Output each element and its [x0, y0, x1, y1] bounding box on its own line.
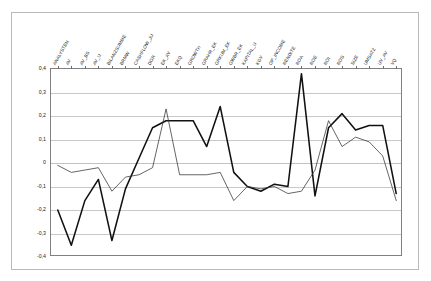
x-axis-tick-label-roi: ROI: [322, 56, 331, 66]
x-axis-tick-mark: [342, 66, 343, 69]
x-axis-tick-label-vq: VQ: [390, 58, 398, 66]
x-axis-tick-mark: [166, 66, 167, 69]
x-axis-tick-label-ros: ROS: [336, 55, 345, 66]
y-axis-tick-label: -0,1: [37, 183, 46, 189]
x-axis-tick-mark: [193, 66, 194, 69]
x-axis-tick-label-size: SIZE: [349, 54, 359, 66]
x-axis-tick-mark: [261, 66, 262, 69]
x-axis-tick-label-av_bs: AV_BS: [79, 51, 91, 66]
x-axis-tick-mark: [274, 66, 275, 69]
y-axis-tick-label: 0: [43, 159, 46, 165]
x-axis-tick-mark: [71, 66, 72, 69]
x-axis-tick-label-av_u: AV_U: [92, 53, 102, 66]
x-axis-tick-label-ek_av: EK_AV: [160, 51, 172, 66]
y-axis-tick-label: 0,4: [39, 65, 46, 71]
x-axis-tick-mark: [315, 66, 316, 69]
y-axis-tick-label: -0,3: [37, 230, 46, 236]
x-axis-tick-mark: [207, 66, 208, 69]
x-axis-tick-mark: [396, 66, 397, 69]
chart-root: 0,40,30,20,10-0,1-0,2-0,3-0,4 ANALYSTENA…: [0, 0, 431, 281]
x-axis-tick-mark: [301, 66, 302, 69]
x-axis-tick-label-uv_av: UV_AV: [376, 50, 388, 66]
x-axis-tick-label-ekq: EKQ: [173, 55, 182, 66]
x-axis-tick-label-roa: ROA: [295, 55, 304, 66]
y-axis-tick-label: 0,3: [39, 89, 46, 95]
x-axis-tick-mark: [288, 66, 289, 69]
x-axis-tick-mark: [112, 66, 113, 69]
x-axis-tick-label-dgr: DGR: [146, 54, 156, 66]
x-axis-tick-mark: [234, 66, 235, 69]
x-axis-tick-label-av: AV: [65, 58, 72, 66]
x-axis-tick-mark: [383, 66, 384, 69]
y-axis-tick-label: 0,2: [39, 112, 46, 118]
x-axis-tick-label-kgv: KGV: [255, 55, 264, 66]
y-axis-tick-labels: 0,40,30,20,10-0,1-0,2-0,3-0,4: [0, 0, 50, 281]
x-axis-tick-mark: [369, 66, 370, 69]
x-axis-tick-mark: [85, 66, 86, 69]
y-axis-tick-label: 0,1: [39, 136, 46, 142]
x-axis-tick-mark: [125, 66, 126, 69]
x-axis-tick-mark: [139, 66, 140, 69]
x-axis-tick-label-umsatz: UMSATZ: [363, 47, 377, 66]
x-axis-tick-mark: [356, 66, 357, 69]
x-axis-tick-mark: [180, 66, 181, 69]
x-axis-tick-mark: [329, 66, 330, 69]
y-axis-tick-label: -0,2: [37, 206, 46, 212]
y-axis-tick-label: -0,4: [37, 253, 46, 259]
x-axis-tick-marks: [51, 69, 401, 255]
x-axis-tick-label-brmw: BRMW: [119, 51, 131, 66]
x-axis-tick-mark: [247, 66, 248, 69]
x-axis-tick-mark: [220, 66, 221, 69]
x-axis-tick-mark: [58, 66, 59, 69]
x-axis-tick-mark: [98, 66, 99, 69]
plot-area: [50, 68, 402, 256]
x-axis-tick-label-roe: ROE: [309, 55, 318, 66]
x-axis-tick-mark: [153, 66, 154, 69]
x-axis-tick-labels: ANALYSTENAVAV_BSAV_UBILANZSUMMEBRMWCASHF…: [50, 0, 402, 68]
